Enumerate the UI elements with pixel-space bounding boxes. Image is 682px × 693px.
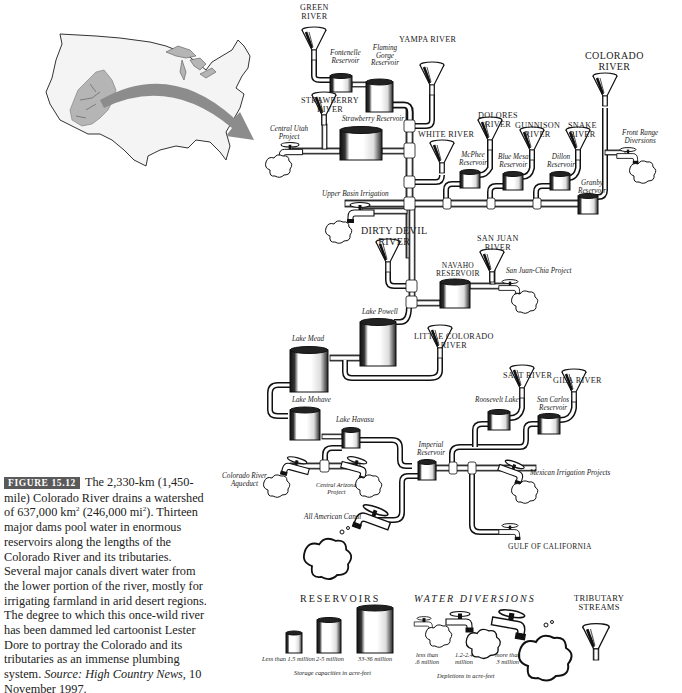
legend-diversion-medium: 1.2-2.4 million <box>455 652 473 665</box>
label-line: RIVER <box>301 106 359 115</box>
figure-label-badge: FIGURE 15.12 <box>4 477 80 489</box>
label-line: Reservoir <box>417 450 445 458</box>
label-line: RIVER <box>515 131 560 140</box>
label-salt-river: SALT RIVER <box>503 372 552 381</box>
label-strawberry-reservoir: Strawberry Reservoir <box>342 116 404 124</box>
label-line: Project <box>316 489 357 496</box>
figure-caption: FIGURE 15.12The 2,330-km (1,450-mile) Co… <box>4 475 208 693</box>
us-locator-map <box>46 34 254 166</box>
label-colorado-river-aqueduct: Colorado River Aqueduct <box>222 473 267 488</box>
label-dolores-river: DOLORES RIVER <box>478 112 518 129</box>
label-lake-mead: Lake Mead <box>292 336 324 344</box>
label-line: Diversions <box>622 138 658 146</box>
label-dirty-devil-river: DIRTY DEVIL RIVER <box>361 226 427 247</box>
label-little-colorado-river: LITTLE COLORADO RIVER <box>414 333 494 350</box>
label-line: Aqueduct <box>222 481 267 489</box>
legend-reservoirs-title: RESERVOIRS <box>300 594 380 605</box>
label-colorado-river: COLORADO RIVER <box>585 51 644 72</box>
legend-reservoir-medium: 2-5 million <box>316 656 344 663</box>
colorado-plumbing-figure: GREEN RIVER YAMPA RIVER STRAWBERRY RIVER… <box>0 0 682 693</box>
label-line: Reservoir <box>578 188 606 196</box>
label-gunnison-river: GUNNISON RIVER <box>515 122 560 139</box>
legend-tributary-streams: TRIBUTARY STREAMS <box>574 594 624 612</box>
label-lake-powell: Lake Powell <box>362 309 398 317</box>
label-mcphee-reservoir: McPhee Reservoir <box>459 152 487 167</box>
label-san-juan-river: SAN JUAN RIVER <box>477 235 519 252</box>
caption-text: ). Thirteen major dams pool water in eno… <box>4 505 207 681</box>
label-fontenelle-reservoir: Fontenelle Reservoir <box>330 50 361 65</box>
label-line: Reservoir <box>371 60 399 68</box>
label-granby-reservoir: Granby Reservoir <box>578 180 606 195</box>
label-line: RIVER <box>414 342 494 351</box>
label-green-river: GREEN RIVER <box>300 4 329 21</box>
label-central-arizona-project: Central Arizona Project <box>316 482 357 495</box>
label-line: 3 million <box>495 659 520 666</box>
label-line: RIVER <box>300 13 329 22</box>
label-gulf-of-california: GULF OF CALIFORNIA <box>508 543 592 551</box>
legend-diversion-large: more than 3 million <box>495 652 520 665</box>
label-central-utah-project: Central Utah Project <box>270 126 308 141</box>
label-line: RIVER <box>585 62 644 73</box>
legend-reservoir-small: Less than 1.5 million <box>262 656 315 663</box>
label-yampa-river: YAMPA RIVER <box>399 36 456 45</box>
label-line: million <box>455 659 473 666</box>
label-line: Reservoir <box>547 162 575 170</box>
caption-text: (246,000 mi <box>80 505 143 519</box>
label-snake-river: SNAKE RIVER <box>568 122 597 139</box>
label-mexican-irrigation-projects: Mexican Irrigation Projects <box>530 470 610 478</box>
label-strawberry-river: STRAWBERRY RIVER <box>301 97 359 114</box>
label-line: Project <box>270 134 308 142</box>
label-roosevelt-lake: Roosevelt Lake <box>475 397 519 405</box>
label-line: Reservoir <box>330 58 361 66</box>
caption-source: Source: High Country News, <box>44 667 186 681</box>
label-line: Reservoir <box>459 160 487 168</box>
label-line: RIVER <box>478 121 518 130</box>
label-line: DIRTY DEVIL <box>361 226 427 237</box>
label-front-range-diversions: Front Range Diversions <box>622 130 658 145</box>
label-flaming-gorge-reservoir: Flaming Gorge Reservoir <box>371 45 399 68</box>
label-all-american-canal: All American Canal <box>304 514 361 522</box>
label-san-juan-chia-project: San Juan-Chia Project <box>506 268 572 276</box>
label-lake-havasu: Lake Havasu <box>336 417 374 425</box>
label-line: RIVER <box>568 131 597 140</box>
label-imperial-reservoir: Imperial Reservoir <box>417 442 445 457</box>
label-gila-river: GILA RIVER <box>553 377 602 386</box>
label-upper-basin-irrigation: Upper Basin Irrigation <box>322 191 389 199</box>
label-line: RIVER <box>361 237 427 248</box>
label-line: RIVER <box>477 244 519 253</box>
legend-diversion-small: less than .6 million <box>415 652 439 665</box>
label-lake-mohave: Lake Mohave <box>292 397 331 405</box>
legend-water-diversions-title: WATER DIVERSIONS <box>414 594 536 605</box>
label-san-carlos-reservoir: San Carlos Reservoir <box>537 397 569 412</box>
label-white-river: WHITE RIVER <box>418 131 474 140</box>
label-line: STREAMS <box>574 603 624 612</box>
legend-diversion-footnote: Depletions in acre-feet <box>437 673 494 680</box>
label-blue-mesa-reservoir: Blue Mesa Reservoir <box>498 154 529 169</box>
legend-reservoir-large: 33-36 million <box>358 656 392 663</box>
label-line: Reservoir <box>498 162 529 170</box>
legend-reservoir-footnote: Storage capacities in acre-feet <box>294 670 371 677</box>
label-navaho-reservoir: NAVAHO RESERVOIR <box>436 262 480 278</box>
label-line: COLORADO <box>585 51 644 62</box>
label-line: .6 million <box>415 659 439 666</box>
label-dillon-reservoir: Dillon Reservoir <box>547 154 575 169</box>
label-line: Reservoir <box>537 405 569 413</box>
label-line: RESERVOIR <box>436 270 480 278</box>
